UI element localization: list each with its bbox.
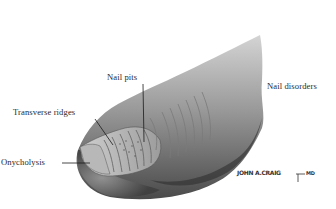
- figure-title: Nail disorders: [267, 81, 317, 91]
- finger-illustration: [0, 0, 336, 209]
- label-nail-pits: Nail pits: [107, 72, 137, 82]
- label-onycholysis: Onycholysis: [1, 157, 45, 167]
- artist-signature: JOHN A.CRAIG: [237, 169, 281, 176]
- label-transverse-ridges: Transverse ridges: [13, 107, 75, 117]
- signature-mark: [296, 174, 305, 182]
- artist-signature-suffix: MD: [306, 170, 315, 176]
- illustration: Nail pits Transverse ridges Onycholysis …: [0, 0, 336, 209]
